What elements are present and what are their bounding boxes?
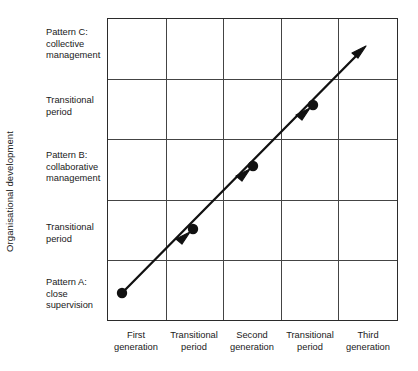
gridline-horizontal-2 xyxy=(108,139,397,140)
x-axis-label-third-generation: Third generation xyxy=(339,330,397,353)
gridline-vertical-4 xyxy=(338,19,339,320)
x-axis-label-second-generation: Second generation xyxy=(223,330,281,353)
gridline-vertical-2 xyxy=(223,19,224,320)
gridline-vertical-1 xyxy=(166,19,167,320)
y-axis-title-label: Organisational development xyxy=(4,131,15,252)
gridline-horizontal-4 xyxy=(108,260,397,261)
y-axis-label-transitional-lower: Transitional period xyxy=(46,222,104,245)
y-axis-label-pattern-c: Pattern C: collective management xyxy=(46,27,104,62)
x-axis-label-transitional-period-1: Transitional period xyxy=(165,330,223,353)
organisational-development-diagram: Organisational development Pattern C: co… xyxy=(0,0,418,371)
gridline-horizontal-3 xyxy=(108,200,397,201)
gridline-horizontal-1 xyxy=(108,79,397,80)
plot-grid xyxy=(107,18,398,321)
x-axis-label-transitional-period-2: Transitional period xyxy=(281,330,339,353)
x-axis-label-first-generation: First generation xyxy=(107,330,165,353)
y-axis-label-pattern-b: Pattern B: collaborative management xyxy=(46,150,104,185)
y-axis-label-pattern-a: Pattern A: close supervision xyxy=(46,277,104,312)
y-axis-title: Organisational development xyxy=(0,0,18,371)
y-axis-label-transitional-upper: Transitional period xyxy=(46,95,104,118)
gridline-vertical-3 xyxy=(281,19,282,320)
